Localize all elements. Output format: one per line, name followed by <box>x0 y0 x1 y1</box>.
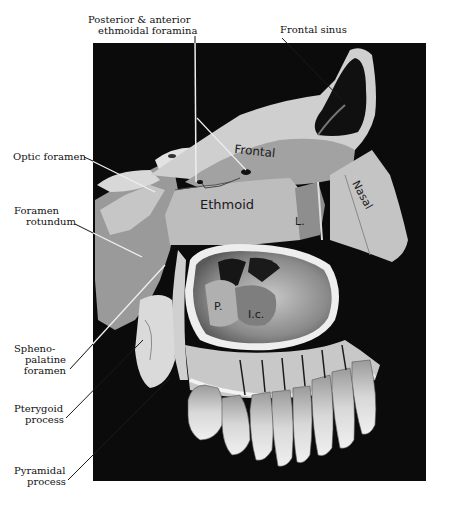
anatomy-figure: Frontal Ethmoid L. Nasal P. I.c. <box>0 0 451 521</box>
label-sphenopalatine-foramen: Spheno- palatine foramen <box>14 343 66 376</box>
label-pyramidal-process: Pyramidal process <box>14 465 66 487</box>
label-ethmoid: Ethmoid <box>200 197 254 212</box>
label-frontal-sinus: Frontal sinus <box>280 24 347 35</box>
label-foramen-rotundum: Foramen rotundum <box>14 205 76 227</box>
skull-photo: Frontal Ethmoid L. Nasal P. I.c. <box>0 0 451 521</box>
label-optic-foramen: Optic foramen <box>13 151 86 162</box>
label-ethmoidal-foramina: Posterior & anterior ethmoidal foramina <box>88 14 197 36</box>
label-palatine: P. <box>214 300 222 313</box>
ethmoidal-foramen-posterior <box>197 180 203 184</box>
label-inferior-concha: I.c. <box>248 308 264 321</box>
label-lacrimal: L. <box>295 215 305 228</box>
leader-ethmoidal-posterior <box>195 36 196 182</box>
label-pterygoid-process: Pterygoid process <box>14 403 64 425</box>
